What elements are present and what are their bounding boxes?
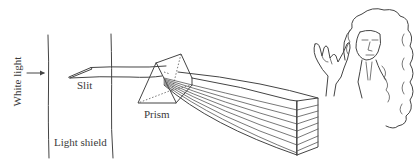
newton-portrait-icon xyxy=(314,9,413,128)
spectrum-beam-icon xyxy=(164,72,318,155)
white-light-label: White light xyxy=(12,51,23,113)
slit-label: Slit xyxy=(77,80,92,91)
light-shield-label: Light shield xyxy=(54,137,107,148)
prism-label: Prism xyxy=(144,109,170,120)
slit xyxy=(69,68,92,79)
prism-experiment-diagram: White light Slit Light shield Prism xyxy=(0,0,420,166)
arrow-right-icon xyxy=(27,71,45,76)
